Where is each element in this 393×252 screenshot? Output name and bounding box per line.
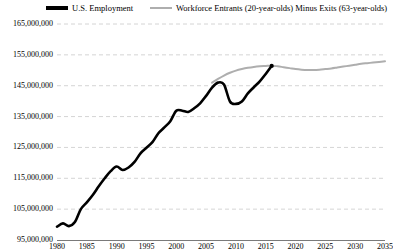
legend-entry-workforce-entrants-minus-exits: Workforce Entrants (20-year-olds) Minus … <box>150 0 387 16</box>
x-axis-tick-labels: 1980198519901995200020052010201520202025… <box>57 242 385 252</box>
x-tick-label: 2010 <box>228 242 244 251</box>
x-tick-label: 1985 <box>79 242 95 251</box>
legend-entry-us-employment: U.S. Employment <box>46 0 133 16</box>
chart-legend: U.S. Employment Workforce Entrants (20-y… <box>0 0 392 16</box>
series-line <box>57 66 272 227</box>
data-series-layer <box>57 24 385 240</box>
series-end-marker <box>270 64 274 68</box>
x-tick-label: 2015 <box>258 242 274 251</box>
x-tick-label: 2025 <box>317 242 333 251</box>
x-axis-line <box>57 240 385 241</box>
x-tick-label: 2020 <box>288 242 304 251</box>
x-tick-label: 2000 <box>168 242 184 251</box>
y-tick-label: 145,000,000 <box>13 82 53 90</box>
x-tick-label: 1980 <box>49 242 65 251</box>
x-tick-label: 1995 <box>138 242 154 251</box>
y-tick-label: 165,000,000 <box>13 20 53 28</box>
y-tick-label: 105,000,000 <box>13 205 53 213</box>
x-tick-label: 2005 <box>198 242 214 251</box>
legend-swatch-line-icon <box>46 6 68 10</box>
y-tick-label: 95,000,000 <box>17 236 53 244</box>
legend-label-workforce-entrants-minus-exits: Workforce Entrants (20-year-olds) Minus … <box>176 3 387 13</box>
y-tick-label: 155,000,000 <box>13 51 53 59</box>
plot-area <box>57 24 385 240</box>
y-tick-label: 115,000,000 <box>13 174 53 182</box>
x-tick-label: 2035 <box>377 242 393 251</box>
series-line <box>212 61 385 82</box>
y-tick-label: 125,000,000 <box>13 143 53 151</box>
x-tick-label: 2030 <box>347 242 363 251</box>
y-axis-tick-labels: 95,000,000105,000,000115,000,000125,000,… <box>0 24 53 240</box>
legend-swatch-line-icon <box>150 7 172 9</box>
y-tick-label: 135,000,000 <box>13 113 53 121</box>
legend-label-us-employment: U.S. Employment <box>72 3 133 13</box>
x-tick-label: 1990 <box>109 242 125 251</box>
